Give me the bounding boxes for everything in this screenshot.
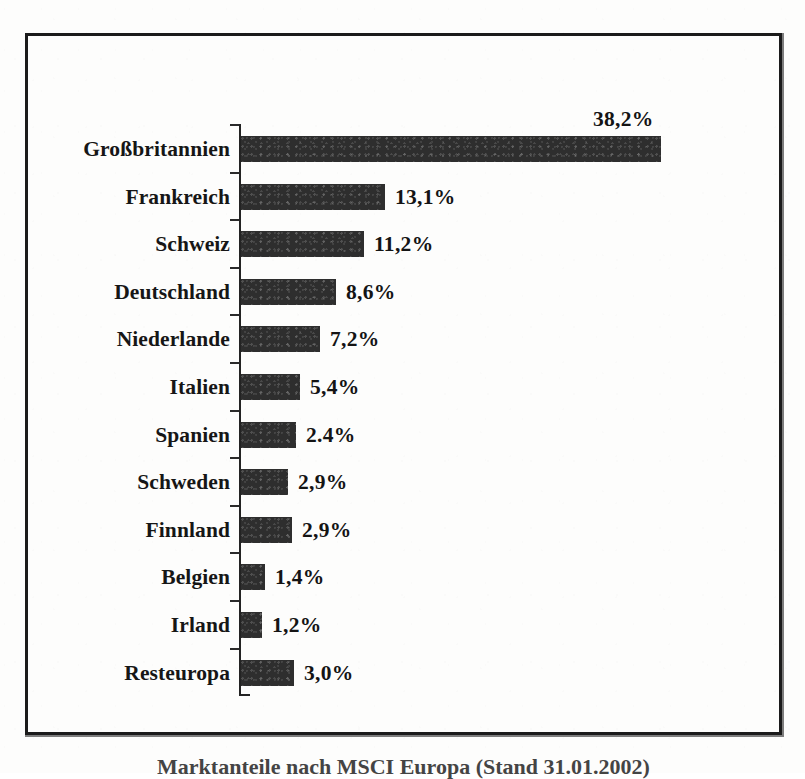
- category-label: Resteuropa: [28, 663, 230, 685]
- axis-tick: [230, 267, 239, 269]
- bar: [241, 660, 294, 686]
- axis-tick: [230, 600, 239, 602]
- bar-value-label: 3,0%: [304, 663, 354, 685]
- plot-area: Großbritannien38,2%Frankreich13,1%Schwei…: [28, 36, 785, 738]
- category-label: Schweden: [28, 472, 230, 494]
- category-label: Deutschland: [28, 282, 230, 304]
- bar-row: Schweiz11,2%: [28, 221, 785, 269]
- bar-value-label: 11,2%: [374, 234, 433, 256]
- bar-row: Finnland2,9%: [28, 507, 785, 555]
- axis-tick: [230, 552, 239, 554]
- bar: [241, 184, 385, 210]
- bar-row: Spanien2.4%: [28, 412, 785, 460]
- category-label: Belgien: [28, 567, 230, 589]
- bar: [241, 517, 292, 543]
- bar: [241, 279, 336, 305]
- axis-tick: [230, 648, 239, 650]
- bar-value-label: 5,4%: [310, 377, 360, 399]
- chart-frame-border: Großbritannien38,2%Frankreich13,1%Schwei…: [25, 33, 782, 735]
- bar-value-label: 2,9%: [298, 472, 348, 494]
- axis-tick: [230, 124, 239, 126]
- bar-value-label: 1,4%: [275, 567, 325, 589]
- category-label: Italien: [28, 377, 230, 399]
- bar-value-label: 13,1%: [395, 187, 456, 209]
- bar-row: Italien5,4%: [28, 364, 785, 412]
- bar-value-label: 2,9%: [302, 520, 352, 542]
- axis-tick: [230, 362, 239, 364]
- bar: [241, 231, 364, 257]
- bar-row: Niederlande7,2%: [28, 316, 785, 364]
- bar: [241, 612, 262, 638]
- bar-row: Großbritannien38,2%: [28, 126, 785, 174]
- category-label: Spanien: [28, 425, 230, 447]
- bar-row: Deutschland8,6%: [28, 269, 785, 317]
- bar: [241, 326, 320, 352]
- category-label: Frankreich: [28, 187, 230, 209]
- bar-row: Frankreich13,1%: [28, 174, 785, 222]
- axis-tick: [230, 457, 239, 459]
- bar-row: Belgien1,4%: [28, 554, 785, 602]
- bar-row: Schweden2,9%: [28, 459, 785, 507]
- bar-value-label: 38,2%: [593, 109, 654, 131]
- bar-row: Irland1,2%: [28, 602, 785, 650]
- category-label: Finnland: [28, 520, 230, 542]
- bar: [241, 564, 265, 590]
- axis-tick: [230, 219, 239, 221]
- category-label: Irland: [28, 615, 230, 637]
- bar: [241, 422, 296, 448]
- bar-value-label: 2.4%: [306, 425, 356, 447]
- category-label: Großbritannien: [28, 139, 230, 161]
- bar-row: Resteuropa3,0%: [28, 650, 785, 698]
- bar: [241, 136, 661, 162]
- category-label: Niederlande: [28, 329, 230, 351]
- axis-tick: [230, 505, 239, 507]
- axis-tick: [230, 410, 239, 412]
- bar-value-label: 8,6%: [346, 282, 396, 304]
- axis-tick: [230, 172, 239, 174]
- bar: [241, 374, 300, 400]
- axis-tick: [230, 314, 239, 316]
- bar-value-label: 7,2%: [330, 329, 380, 351]
- bar-value-label: 1,2%: [272, 615, 322, 637]
- bar: [241, 469, 288, 495]
- category-label: Schweiz: [28, 234, 230, 256]
- figure-caption: Marktanteile nach MSCI Europa (Stand 31.…: [25, 754, 782, 779]
